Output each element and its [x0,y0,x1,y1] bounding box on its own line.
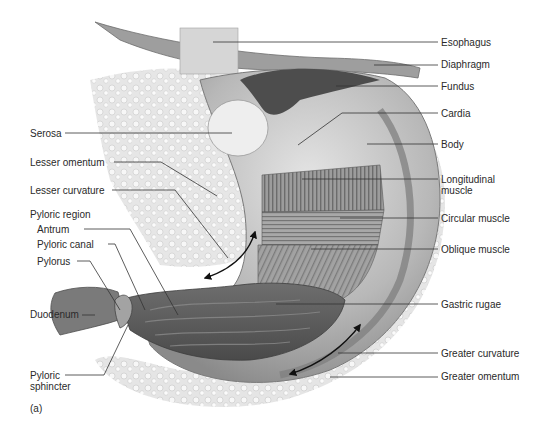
label-cardia: Cardia [441,108,470,119]
label-pyloric-sphincter: Pyloric sphincter [30,370,78,392]
label-lesser-omentum: Lesser omentum [30,157,104,168]
label-circular-muscle: Circular muscle [441,213,510,224]
label-gastric-rugae: Gastric rugae [441,299,501,310]
label-pyloric-region: Pyloric region [30,209,91,220]
serosa-bulge [208,100,268,156]
label-serosa: Serosa [30,128,62,139]
label-greater-omentum: Greater omentum [441,371,519,382]
label-lesser-curvature: Lesser curvature [30,185,104,196]
label-pyloric-canal: Pyloric canal [37,239,94,250]
label-fundus: Fundus [441,81,474,92]
diaphragm-band [95,22,420,78]
label-esophagus: Esophagus [441,37,491,48]
circular-muscle-layer [262,210,384,245]
label-antrum: Antrum [37,224,69,235]
label-pylorus: Pylorus [37,256,70,267]
label-oblique-muscle: Oblique muscle [441,244,510,255]
label-duodenum: Duodenum [30,309,79,320]
esophagus-tube [180,28,238,74]
label-longitudinal-muscle: Longitudinal muscle [441,174,503,196]
label-body: Body [441,139,464,150]
label-greater-curvature: Greater curvature [441,348,519,359]
label-diaphragm: Diaphragm [441,59,490,70]
panel-label: (a) [30,403,42,414]
